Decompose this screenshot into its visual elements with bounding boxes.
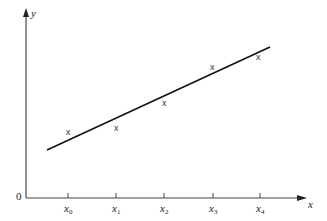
tick-label-x3: x3 <box>208 202 218 216</box>
x-ticks <box>68 193 260 198</box>
data-point-3: x <box>210 62 215 72</box>
x-axis-arrow-icon <box>297 195 307 201</box>
tick-label-x2: x2 <box>159 202 169 216</box>
x-axis-label: x <box>307 198 313 210</box>
tick-label-x0: x0 <box>63 202 73 216</box>
fit-line <box>47 47 270 150</box>
y-axis-arrow-icon <box>23 8 29 17</box>
origin-label: 0 <box>16 190 22 202</box>
data-point-1: x <box>114 123 119 133</box>
tick-label-x4: x4 <box>255 202 265 216</box>
y-axis-label: y <box>30 7 36 19</box>
tick-label-x1: x1 <box>111 202 121 216</box>
data-point-2: x <box>162 98 167 108</box>
data-point-4: x <box>256 52 261 62</box>
data-point-0: x <box>66 127 71 137</box>
least-squares-diagram: y x 0 x0 x1 x2 x3 x4 x x x x x <box>0 0 327 221</box>
